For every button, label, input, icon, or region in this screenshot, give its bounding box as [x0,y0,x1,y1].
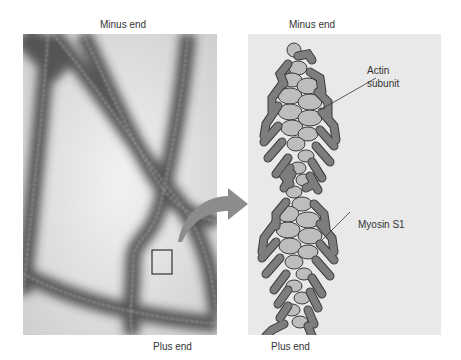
left-minus-end-label: Minus end [100,19,146,30]
actin-myosin-schematic [248,34,441,335]
curved-arrow-icon [170,180,255,250]
actin-label-line1: Actin [367,64,399,77]
myosin-s1-label: Myosin S1 [358,219,405,230]
actin-label-line2: subunit [367,77,399,90]
left-plus-end-label: Plus end [153,341,192,352]
actin-subunit-label: Actin subunit [367,64,399,90]
right-minus-end-label: Minus end [289,19,335,30]
right-plus-end-label: Plus end [271,341,310,352]
